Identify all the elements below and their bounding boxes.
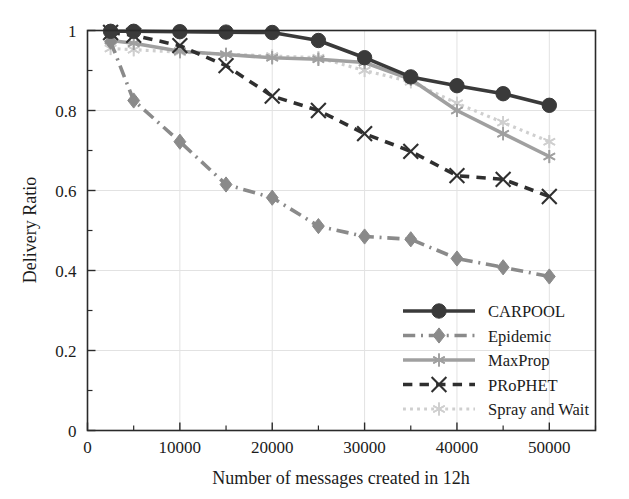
x-tick-label: 40000 xyxy=(436,438,479,457)
series-marker xyxy=(173,25,187,39)
legend-marker-sample xyxy=(432,304,446,318)
y-tick-label: 0.6 xyxy=(55,182,76,201)
y-axis-tick-labels: 00.20.40.60.81 xyxy=(55,22,77,441)
data-series-layer xyxy=(103,24,557,284)
series-marker xyxy=(219,25,233,39)
x-tick-label: 30000 xyxy=(343,438,386,457)
y-tick-label: 0.8 xyxy=(55,102,76,121)
x-tick-label: 50000 xyxy=(528,438,571,457)
series-marker xyxy=(542,98,556,112)
y-tick-label: 0 xyxy=(68,422,77,441)
series-marker xyxy=(450,79,464,93)
series-marker xyxy=(496,87,510,101)
series-prophet xyxy=(103,25,557,204)
series-marker xyxy=(312,219,324,234)
series-line xyxy=(111,42,550,277)
series-carpool xyxy=(103,24,556,112)
series-line xyxy=(111,49,550,142)
series-marker xyxy=(357,51,371,65)
legend-item-maxprop[interactable]: MaxProp xyxy=(403,351,549,370)
legend-label: Spray and Wait xyxy=(488,400,589,419)
x-tick-label: 20000 xyxy=(251,438,294,457)
legend-marker-sample xyxy=(433,328,445,343)
series-marker xyxy=(404,70,418,84)
x-tick-label: 0 xyxy=(83,438,92,457)
series-marker xyxy=(266,190,278,205)
legend-item-prophet[interactable]: PRoPHET xyxy=(403,376,558,395)
series-maxprop xyxy=(105,34,555,163)
legend-label: PRoPHET xyxy=(488,376,558,395)
legend-item-spray-and-wait[interactable]: Spray and Wait xyxy=(403,400,589,419)
series-marker xyxy=(265,25,279,39)
series-marker xyxy=(543,269,555,284)
series-marker xyxy=(359,229,371,244)
series-marker xyxy=(311,33,325,47)
series-marker xyxy=(497,260,509,275)
legend-label: CARPOOL xyxy=(488,302,565,321)
legend-item-carpool[interactable]: CARPOOL xyxy=(403,302,565,321)
chart-legend: CARPOOLEpidemicMaxPropPRoPHETSpray and W… xyxy=(403,302,589,419)
x-tick-label: 10000 xyxy=(159,438,202,457)
y-axis-title: Delivery Ratio xyxy=(20,177,40,283)
legend-label: MaxProp xyxy=(488,351,549,370)
series-epidemic xyxy=(105,34,556,284)
legend-label: Epidemic xyxy=(488,327,551,346)
y-tick-label: 0.4 xyxy=(55,262,77,281)
series-marker xyxy=(451,251,463,266)
legend-marker-sample xyxy=(433,402,444,415)
chart-figure: 01000020000300004000050000 00.20.40.60.8… xyxy=(0,0,629,499)
y-tick-label: 0.2 xyxy=(55,342,76,361)
series-marker xyxy=(405,232,417,247)
delivery-ratio-line-chart: 01000020000300004000050000 00.20.40.60.8… xyxy=(0,0,629,499)
legend-item-epidemic[interactable]: Epidemic xyxy=(403,327,551,346)
series-line xyxy=(111,33,550,197)
series-marker xyxy=(403,144,418,159)
x-axis-ticks xyxy=(88,423,596,431)
x-axis-title: Number of messages created in 12h xyxy=(212,468,469,488)
y-axis-ticks xyxy=(88,31,96,431)
y-tick-label: 1 xyxy=(68,22,77,41)
x-axis-tick-labels: 01000020000300004000050000 xyxy=(83,438,570,457)
series-spray-and-wait xyxy=(105,42,555,148)
